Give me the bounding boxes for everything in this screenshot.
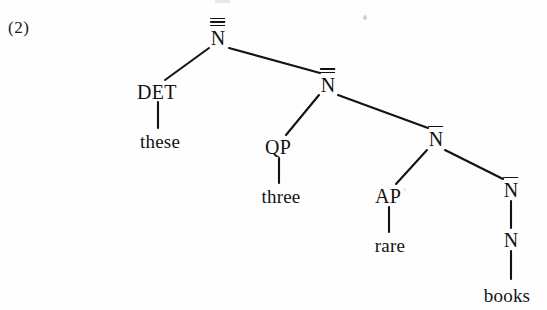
overbar-stroke-icon [321, 68, 336, 69]
tree-node-n-plain: N [504, 230, 519, 250]
tree-node-three: three [262, 187, 301, 206]
tree-edge-n-double-to-n-single-1 [338, 95, 428, 128]
tree-node-label: N [429, 128, 444, 150]
tree-node-n-single-2: N [504, 180, 519, 200]
tree-node-label: AP [375, 185, 401, 207]
tree-edge-n-single-1-to-ap [396, 150, 427, 184]
overbar-stroke-icon [211, 21, 226, 22]
tree-edge-n-double-to-qp [286, 95, 319, 135]
overbar-1x-icon [429, 126, 444, 127]
tree-node-n-single-1: N [429, 129, 444, 149]
overbar-stroke-icon [211, 18, 226, 19]
tree-edge-n-triple-to-n-double [229, 48, 320, 73]
tree-edge-n-triple-to-det [165, 48, 209, 80]
tree-node-qp: QP [265, 137, 291, 157]
figure-canvas: (2) NDETtheseNQPthreeNAPrareNNbooks [0, 0, 547, 310]
tree-edge-n-single-1-to-n-single-2 [445, 150, 503, 179]
tree-node-label: QP [265, 136, 291, 158]
tree-node-label: three [262, 186, 301, 207]
tree-node-n-triple: N [211, 28, 226, 48]
tree-node-books: books [484, 286, 530, 305]
overbar-stroke-icon [504, 177, 519, 178]
tree-node-n-double: N [321, 75, 336, 95]
tree-node-label: N [504, 229, 519, 251]
tree-node-label: DET [137, 81, 177, 103]
tree-node-label: books [484, 285, 530, 306]
tree-node-label: N [211, 27, 226, 49]
overbar-stroke-icon [321, 72, 336, 73]
tree-node-label: these [140, 131, 180, 152]
overbar-3x-icon [211, 18, 226, 26]
tree-node-det: DET [137, 82, 177, 102]
overbar-stroke-icon [211, 25, 226, 26]
overbar-stroke-icon [429, 126, 444, 127]
overbar-1x-icon [504, 177, 519, 178]
tree-node-rare: rare [375, 236, 405, 255]
tree-node-ap: AP [375, 186, 401, 206]
tree-node-these: these [140, 132, 180, 151]
overbar-2x-icon [321, 68, 336, 73]
tree-node-label: N [321, 74, 336, 96]
tree-node-label: rare [375, 235, 405, 256]
tree-node-label: N [504, 179, 519, 201]
